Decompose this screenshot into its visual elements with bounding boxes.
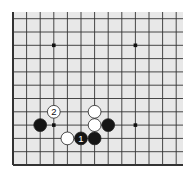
move-number-label: 1 xyxy=(78,133,83,144)
white-stone xyxy=(88,119,101,132)
move-number-label: 2 xyxy=(51,106,56,117)
white-stone xyxy=(61,132,74,145)
hoshi-point xyxy=(52,123,56,127)
hoshi-point xyxy=(52,44,56,48)
hoshi-point xyxy=(134,44,138,48)
black-stone xyxy=(88,132,101,145)
black-stone: 1 xyxy=(75,132,88,145)
black-stone xyxy=(102,119,115,132)
white-stone xyxy=(88,105,101,118)
white-stone: 2 xyxy=(47,105,60,118)
black-stone xyxy=(34,119,47,132)
hoshi-point xyxy=(134,123,138,127)
go-board: 21 xyxy=(0,0,193,171)
